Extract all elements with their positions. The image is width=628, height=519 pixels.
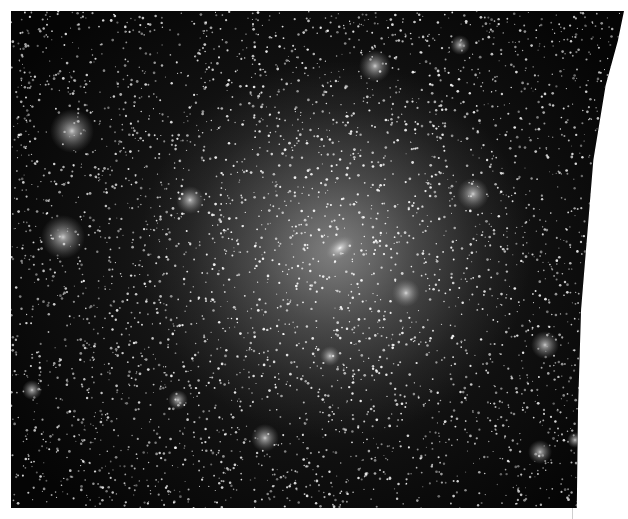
particle-field	[11, 11, 624, 508]
edge-line	[572, 508, 573, 519]
simulation-image	[11, 11, 624, 508]
